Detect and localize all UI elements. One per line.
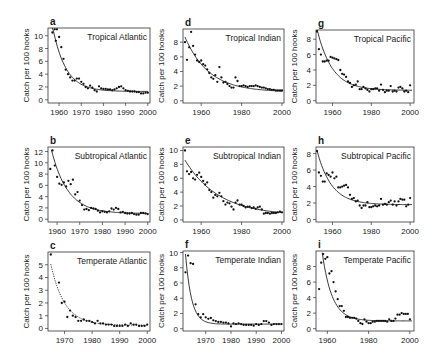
data-point [190,171,192,173]
data-point [378,320,380,322]
data-point [78,77,80,79]
data-point [390,320,392,322]
data-point [269,88,271,90]
data-point [357,80,359,82]
data-point [77,320,79,322]
data-point [79,199,81,201]
data-point [104,211,106,213]
data-point [136,91,138,93]
data-point [113,208,115,210]
data-point [119,325,121,327]
data-point [94,322,96,324]
data-point [235,323,237,325]
data-point [51,31,53,33]
panel-letter: d [185,17,191,28]
data-point [88,320,90,322]
data-point [101,210,103,212]
data-point [138,325,140,327]
y-tick-label: 2 [307,81,312,90]
data-point [127,325,129,327]
panel-b: bSubtropical AtlanticCatch per 100 hooks… [22,135,157,236]
data-point [214,194,216,196]
data-point [399,198,401,200]
data-point [96,320,98,322]
data-point [372,88,374,90]
data-point [376,205,378,207]
data-point [100,87,102,89]
data-point [124,323,126,325]
data-point [91,321,93,323]
data-point [279,89,281,91]
y-tick-label: 0 [39,324,44,333]
y-tick-label: 8 [39,170,44,179]
y-axis-label: Catch per 100 hooks [157,254,166,328]
data-point [131,90,133,92]
data-point [349,317,351,319]
y-tick-label: 8 [174,38,179,47]
data-point [55,40,57,42]
data-point [138,214,140,216]
data-point [212,78,214,80]
data-point [102,88,104,90]
data-point [318,48,320,50]
y-tick-label: 1 [39,312,44,321]
data-point [390,85,392,87]
y-tick-label: 8 [307,263,312,272]
y-tick-label: 8 [174,264,179,273]
data-point [351,86,353,88]
data-point [355,317,357,319]
panel-title: Temperate Pacific [343,255,411,265]
panel-a: aTropical AtlanticCatch per 100 hooks024… [22,16,157,117]
fit-curve [51,264,147,325]
data-point [244,85,246,87]
data-point [73,79,75,81]
data-point [126,212,128,214]
data-point [232,322,234,324]
data-point [330,270,332,272]
data-point [92,207,94,209]
x-tick-label: 1970 [71,227,89,236]
data-point [131,212,133,214]
data-point [395,90,397,92]
x-tick-label: 2000 [401,336,419,345]
data-point [392,204,394,206]
data-point [146,323,148,325]
data-point [194,178,196,180]
data-point [124,212,126,214]
data-point [265,212,267,214]
data-point [117,208,119,210]
data-point [224,203,226,205]
panel-letter: i [318,239,321,250]
data-point [327,60,329,62]
data-point [83,208,85,210]
data-point [67,180,69,182]
data-point [242,205,244,207]
data-point [63,181,65,183]
data-point [372,205,374,207]
data-point [273,323,275,325]
data-point [228,85,230,87]
panel-title: Temperate Atlantic [77,256,148,266]
data-point [108,210,110,212]
data-point [93,89,95,91]
data-point [278,323,280,325]
data-point [257,206,259,208]
data-point [273,212,275,214]
data-point [132,323,134,325]
y-tick-label: 8 [307,35,312,44]
data-point [89,85,91,87]
data-point [225,321,227,323]
data-point [144,92,146,94]
data-point [222,200,224,202]
data-point [362,86,364,88]
data-point [380,320,382,322]
data-point [50,253,52,255]
data-point [339,69,341,71]
data-point [263,320,265,322]
panel-c: cTemperate AtlanticCatch per 100 hooks01… [22,240,157,345]
data-point [357,199,359,201]
data-point [135,323,137,325]
data-point [333,177,335,179]
data-point [60,46,62,48]
data-point [224,81,226,83]
